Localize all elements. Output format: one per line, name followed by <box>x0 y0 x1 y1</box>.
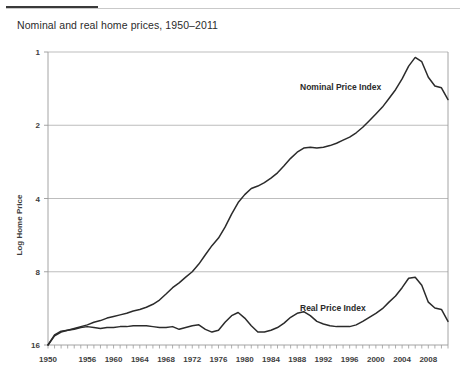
x-axis-tick-labels: 1950195619601964196819721976198019841988… <box>39 355 438 364</box>
x-tick-label: 1956 <box>78 355 96 364</box>
y-axis-tick-labels: 168421 <box>31 48 48 350</box>
x-tick-label: 1976 <box>210 355 228 364</box>
x-tick-label: 2004 <box>393 355 411 364</box>
x-tick-label: 1968 <box>157 355 175 364</box>
x-tick-label: 2008 <box>419 355 437 364</box>
x-tick-label: 1996 <box>341 355 359 364</box>
series-lines <box>48 57 448 345</box>
x-tick-label: 1984 <box>262 355 280 364</box>
figure-container: Nominal and real home prices, 1950–2011 … <box>0 0 466 371</box>
x-tick-label: 1972 <box>183 355 201 364</box>
plot-area: 168421 195019561960196419681972197619801… <box>0 0 466 371</box>
series-line <box>48 57 448 345</box>
x-tick-label: 1950 <box>39 355 57 364</box>
x-tick-label: 2000 <box>367 355 385 364</box>
x-tick-label: 1980 <box>236 355 254 364</box>
nominal-series-annotation: Nominal Price Index <box>300 82 382 92</box>
y-axis-title: Log Home Price <box>15 194 24 255</box>
y-tick-label: 2 <box>36 121 41 130</box>
real-series-annotation: Real Price Index <box>300 303 366 313</box>
y-tick-label: 8 <box>36 268 41 277</box>
x-axis-ticks <box>48 345 448 349</box>
y-tick-label: 16 <box>31 341 40 350</box>
y-tick-label: 4 <box>36 195 41 204</box>
series-line <box>48 277 448 345</box>
y-tick-label: 1 <box>36 48 41 57</box>
x-tick-label: 1964 <box>131 355 149 364</box>
gridlines <box>48 52 448 272</box>
x-tick-label: 1988 <box>288 355 306 364</box>
x-tick-label: 1992 <box>315 355 333 364</box>
line-chart: 168421 195019561960196419681972197619801… <box>0 0 466 371</box>
x-tick-label: 1960 <box>105 355 123 364</box>
